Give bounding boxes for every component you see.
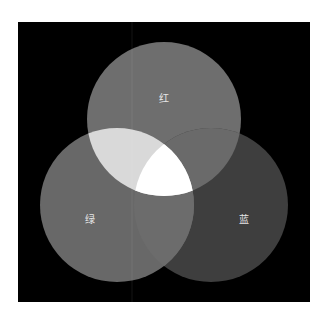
red-label: 红 xyxy=(159,92,169,104)
venn-diagram: 红 绿 蓝 xyxy=(0,0,326,319)
green-label: 绿 xyxy=(85,213,95,225)
blue-label: 蓝 xyxy=(239,214,249,225)
